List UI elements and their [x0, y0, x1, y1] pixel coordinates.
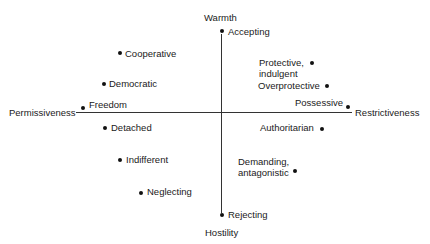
point-label-detached: Detached: [111, 122, 152, 133]
point-marker: [220, 29, 224, 33]
point-marker: [220, 213, 224, 217]
point-label-accepting: Accepting: [228, 26, 270, 37]
point-label-neglecting: Neglecting: [147, 186, 192, 197]
point-label-rejecting: Rejecting: [228, 209, 268, 220]
point-marker: [293, 169, 297, 173]
point-label-democratic: Democratic: [109, 78, 157, 89]
axis-label-permissiveness: Permissiveness: [9, 107, 76, 118]
point-label-possessive: Possessive: [295, 97, 343, 108]
point-marker: [81, 106, 85, 110]
point-label-indifferent: Indifferent: [126, 154, 168, 165]
point-marker: [118, 158, 122, 162]
axis-label-restrictiveness: Restrictiveness: [355, 107, 419, 118]
axis-label-hostility: Hostility: [205, 227, 238, 238]
point-label-cooperative: Cooperative: [125, 48, 176, 59]
point-marker: [310, 61, 314, 65]
point-marker: [346, 105, 350, 109]
horizontal-axis: [76, 112, 352, 113]
point-label-overprotective: Overprotective: [258, 80, 320, 91]
point-label-protective-indulgent: Protective, indulgent: [259, 57, 304, 79]
point-marker: [325, 84, 329, 88]
point-marker: [320, 127, 324, 131]
point-label-freedom: Freedom: [89, 99, 127, 110]
point-label-demanding-antagonistic: Demanding, antagonistic: [238, 156, 289, 178]
point-marker: [118, 51, 122, 55]
vertical-axis: [221, 34, 222, 213]
axis-label-warmth: Warmth: [204, 12, 237, 23]
point-marker: [139, 191, 143, 195]
point-marker: [103, 126, 107, 130]
point-label-authoritarian: Authoritarian: [260, 122, 314, 133]
point-marker: [102, 82, 106, 86]
